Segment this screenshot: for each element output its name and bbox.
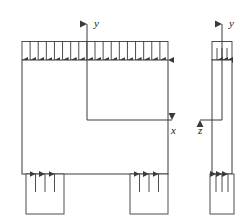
beam-body-front [22, 60, 168, 174]
distributed-load-top [22, 41, 168, 60]
beam-load-diagram: y x y z [0, 0, 250, 219]
side-view: y z [197, 17, 234, 214]
x-axis-label-front: x [170, 124, 176, 136]
front-view: y x [22, 17, 176, 214]
y-axis-label-side: y [228, 17, 234, 29]
y-axis-label-front: y [93, 17, 99, 29]
z-axis-label-side: z [197, 124, 203, 136]
